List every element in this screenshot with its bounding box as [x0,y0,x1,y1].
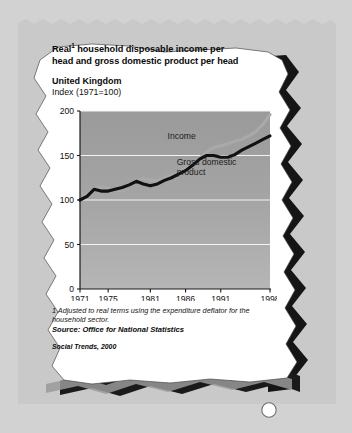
figure-title: Real1 household disposable income perhea… [52,44,280,67]
y-tick-label: 50 [64,240,74,250]
series-label-gross-domestic-product-line2: product [177,167,206,177]
series-label-gross-domestic-product: Gross domestic [177,157,237,167]
x-axis-ticks: 197119751981198619911998 [70,289,277,301]
x-tick-label: 1998 [260,294,277,301]
region-label: United Kingdom [52,76,280,87]
title-prefix: Real [52,44,71,54]
x-tick-label: 1991 [211,294,230,301]
figure-publication: Social Trends, 2000 [52,342,280,351]
y-tick-label: 100 [60,195,75,205]
y-axis-ticks: 050100150200 [60,106,80,294]
punch-hole-circle [258,399,280,421]
figure-source: Source: Office for National Statistics [52,325,280,334]
figure-footnote: 1 Adjusted to real terms using the expen… [52,307,264,324]
series-label-income: Income [168,132,196,142]
x-tick-label: 1971 [70,294,89,301]
figure-content: Real1 household disposable income perhea… [52,44,280,384]
y-tick-label: 0 [69,284,74,294]
title-rest: household disposable income per [75,44,225,54]
chart: 050100150200 197119751981198619911998 In… [52,105,277,301]
y-tick-label: 200 [60,106,75,116]
figure-stage: Real1 household disposable income perhea… [0,0,352,433]
x-tick-label: 1986 [176,294,195,301]
x-tick-label: 1975 [99,294,118,301]
index-note: Index (1971=100) [52,87,280,98]
x-tick-label: 1981 [141,294,160,301]
chart-svg: 050100150200 197119751981198619911998 In… [52,105,277,301]
y-tick-label: 150 [60,151,75,161]
title-line2: head and gross domestic product per head [52,56,238,66]
